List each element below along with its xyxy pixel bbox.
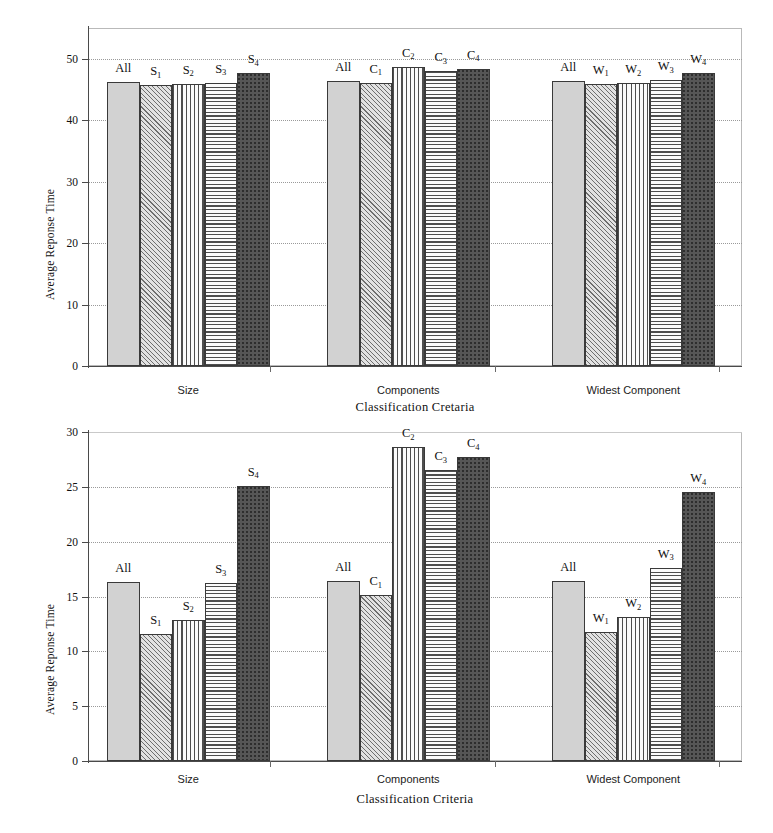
bar-value-label: W4 [690, 52, 706, 67]
y-axis-tick-label: 30 [42, 426, 78, 438]
bar-value-label: All [115, 61, 131, 76]
bar-value-label: S4 [248, 465, 259, 480]
y-axis-line [88, 26, 89, 368]
gridline [88, 59, 742, 60]
bar[interactable] [457, 457, 490, 761]
bar[interactable] [650, 80, 683, 366]
bar[interactable] [172, 84, 205, 366]
bar-value-label: C2 [402, 46, 415, 61]
bar[interactable] [107, 582, 140, 761]
y-axis-tick [82, 120, 88, 121]
y-axis-tick [82, 305, 88, 306]
bar-value-label: C3 [434, 449, 447, 464]
bar-value-label: All [335, 60, 351, 75]
y-axis-tick [82, 542, 88, 543]
x-axis-group-label: Size [178, 384, 199, 396]
bar-value-label: C3 [434, 50, 447, 65]
bar-value-label: All [560, 60, 576, 75]
bar[interactable] [205, 83, 238, 366]
y-axis-tick [82, 182, 88, 183]
y-axis-tick-label: 25 [42, 481, 78, 493]
x-axis-line [84, 366, 742, 367]
bar-value-label: S1 [150, 64, 161, 79]
x-axis-line [84, 761, 742, 762]
y-axis-tick-label: 10 [42, 299, 78, 311]
y-axis-tick-label: 20 [42, 536, 78, 548]
y-axis-title: Average Reponse Time [44, 189, 56, 300]
bar-value-label: C1 [369, 62, 382, 77]
bar-value-label: C2 [402, 426, 415, 441]
bar-value-label: All [560, 560, 576, 575]
bar[interactable] [552, 81, 585, 366]
y-axis-tick [82, 761, 88, 762]
bar[interactable] [140, 85, 173, 366]
bar[interactable] [205, 583, 238, 761]
bar[interactable] [682, 492, 715, 761]
x-axis-tick [495, 761, 496, 767]
bar-value-label: All [115, 561, 131, 576]
y-axis-tick [82, 59, 88, 60]
chart-panel-top: 01020304050Average Reponse TimeAllS1S2S3… [0, 0, 773, 415]
x-axis-tick [495, 366, 496, 372]
bar-value-label: S3 [215, 562, 226, 577]
bar[interactable] [457, 69, 490, 366]
bar-value-label: S3 [215, 62, 226, 77]
bar[interactable] [617, 617, 650, 761]
y-axis-tick [82, 432, 88, 433]
bar[interactable] [172, 620, 205, 761]
bar[interactable] [425, 470, 458, 761]
figure-page: { "figure": { "panel_count": 2 }, "chart… [0, 0, 773, 833]
y-axis-tick [82, 597, 88, 598]
bar[interactable] [392, 67, 425, 366]
bar[interactable] [650, 568, 683, 761]
bar-value-label: W3 [658, 59, 674, 74]
x-axis-group-label: Widest Component [586, 384, 680, 396]
y-axis-tick [82, 487, 88, 488]
bar-value-label: W4 [690, 471, 706, 486]
y-axis-line [88, 430, 89, 763]
x-axis-group-label: Size [178, 773, 199, 785]
y-axis-tick [82, 651, 88, 652]
bar-value-label: C4 [467, 48, 480, 63]
y-axis-tick-label: 50 [42, 53, 78, 65]
x-axis-group-label: Widest Component [586, 773, 680, 785]
gridline [88, 432, 742, 433]
bar[interactable] [107, 82, 140, 366]
bar-value-label: C1 [369, 574, 382, 589]
bar-value-label: C4 [467, 436, 480, 451]
bar[interactable] [360, 595, 393, 761]
x-axis-title: Classification Cretaria [355, 400, 474, 415]
bar-value-label: S2 [183, 599, 194, 614]
bar-value-label: S1 [150, 613, 161, 628]
y-axis-tick-label: 0 [42, 755, 78, 767]
x-axis-tick [719, 761, 720, 767]
bar-value-label: W2 [625, 62, 641, 77]
x-axis-group-label: Components [377, 384, 439, 396]
y-axis-tick [82, 706, 88, 707]
bar[interactable] [585, 84, 618, 366]
x-axis-tick [719, 366, 720, 372]
bar[interactable] [392, 447, 425, 761]
x-axis-tick [270, 761, 271, 767]
x-axis-group-label: Components [377, 773, 439, 785]
bar-value-label: W1 [593, 611, 609, 626]
y-axis-title: Average Reponse Time [44, 604, 56, 715]
bar[interactable] [327, 581, 360, 761]
bar[interactable] [327, 81, 360, 366]
x-axis-tick [270, 366, 271, 372]
bar[interactable] [237, 486, 270, 761]
bar[interactable] [552, 581, 585, 761]
x-axis-title: Classification Criteria [357, 792, 474, 807]
bar-value-label: S4 [248, 52, 259, 67]
chart-panel-bottom: 051015202530Average Reponse TimeAllS1S2S… [0, 415, 773, 833]
bar[interactable] [237, 73, 270, 366]
bar[interactable] [585, 632, 618, 761]
bar[interactable] [425, 71, 458, 366]
bar[interactable] [617, 83, 650, 366]
bar[interactable] [682, 73, 715, 366]
bar[interactable] [360, 83, 393, 366]
bar[interactable] [140, 634, 173, 761]
bar-value-label: S2 [183, 63, 194, 78]
y-axis-tick-label: 0 [42, 360, 78, 372]
bar-value-label: W1 [593, 63, 609, 78]
